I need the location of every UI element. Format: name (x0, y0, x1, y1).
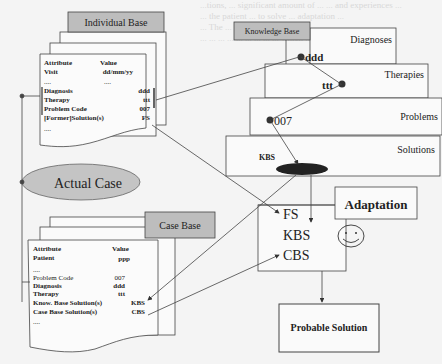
cb-row-value: 007 (115, 274, 126, 282)
ib-row-attr: Therapy (44, 96, 70, 104)
probable-solution-label: Probable Solution (291, 322, 368, 333)
cb-header-attribute: Attribute (33, 245, 61, 253)
individual-base-title: Individual Base (84, 17, 148, 28)
ib-row-attr: [Former]Solution(s) (44, 114, 105, 122)
cb-row-value: KBS (131, 299, 145, 307)
ib-row-attr: .... (44, 125, 51, 133)
ib-row-value: .... (104, 78, 111, 86)
ib-row-value: dd/mm/yy (103, 68, 134, 76)
kb-level-label: Problems (400, 111, 438, 122)
cb-row-value: ddd (113, 282, 125, 290)
kb-level-label: Solutions (397, 144, 435, 155)
ib-row-attr: .... (44, 78, 51, 86)
individual-base: Individual Base Attribute Value Visit dd… (40, 12, 166, 147)
kb-node-problem: 007 (274, 114, 292, 128)
bus-dot (20, 180, 24, 184)
cb-row-attr: Therapy (33, 290, 59, 298)
cb-row-attr: Case Base Solution(s) (33, 308, 98, 316)
cb-row-value: ttt (118, 290, 126, 298)
cb-row-attr: .... (33, 266, 40, 274)
case-base: Case Base Attribute Value Patient ppp ..… (28, 212, 215, 352)
ib-row-value: ddd (138, 87, 150, 95)
cb-row-attr: Know. Base Solution(s) (33, 299, 103, 307)
kb-node-solution: KBS (259, 153, 276, 162)
ib-row-attr: Visit (44, 68, 58, 76)
adaptation-label: Adaptation (345, 197, 409, 212)
ib-row-value: ttt (143, 96, 151, 104)
ib-row-value: 007 (140, 105, 151, 113)
cb-row-value: ppp (118, 255, 130, 263)
ib-header-attribute: Attribute (44, 59, 72, 67)
ib-row-value: FS (142, 114, 150, 122)
cb-row-attr: Diagnosis (33, 282, 62, 290)
case-based-reasoning-diagram: Individual Base Attribute Value Visit dd… (0, 0, 442, 364)
knowledge-base: Diagnoses Therapies Problems Solutions K… (226, 22, 442, 176)
ib-row-attr: Diagnosis (44, 87, 73, 95)
kb-level-label: Therapies (385, 69, 425, 80)
actual-case-label: Actual Case (54, 176, 122, 191)
solutions-box: FS KBS CBS Adaptation (258, 187, 417, 271)
kbs-solution-ellipse (276, 163, 328, 175)
bus-dot (20, 94, 24, 98)
actual-case: Actual Case (22, 164, 140, 200)
cb-row-value: CBS (131, 308, 145, 316)
kb-level-label: Diagnoses (350, 34, 392, 45)
case-base-title: Case Base (159, 220, 201, 231)
solution-item-cbs: CBS (283, 248, 309, 263)
solution-item-kbs: KBS (283, 228, 310, 243)
cb-row-attr: .... (33, 318, 40, 326)
cb-header-value: Value (112, 245, 129, 253)
ib-row-attr: Problem Code (44, 105, 87, 113)
solution-item-fs: FS (283, 207, 299, 222)
cb-row-attr: Patient (33, 254, 55, 262)
ib-header-value: Value (100, 59, 117, 67)
cb-row-attr: Problem Code (33, 274, 73, 282)
knowledge-base-title: Knowledge Base (245, 27, 300, 36)
